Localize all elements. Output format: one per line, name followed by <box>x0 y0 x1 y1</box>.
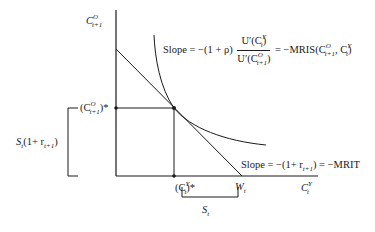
budget-line <box>116 49 242 176</box>
wealth-label: Wt <box>235 182 246 195</box>
indifference-slope-annotation: Slope = −(1 + ρ) U′(CYt) U′(COt+1) = −MR… <box>163 34 352 67</box>
x-axis-label: CYt <box>301 181 309 196</box>
y-axis-optimum-dot <box>114 106 118 110</box>
x-axis-optimum-dot <box>172 174 176 178</box>
budget-slope-annotation: Slope = −(1+ rt+1) = −MRIT <box>241 160 360 173</box>
marginal-utility-ratio: U′(CYt) U′(COt+1) <box>237 34 270 67</box>
optimum-point <box>172 106 176 110</box>
savings-label: St <box>202 205 209 218</box>
optimal-young-consumption-label: (CYt)* <box>175 181 195 196</box>
y-axis-label: COt+1 <box>86 14 102 29</box>
savings-return-bracket <box>68 108 78 176</box>
optimal-old-consumption-label: (COt+1)* <box>80 101 108 116</box>
savings-return-label: St(1+ rt+1) <box>16 137 58 150</box>
